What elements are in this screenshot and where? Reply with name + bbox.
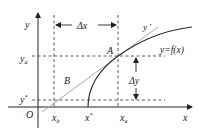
- tangent-line-diagram: y x O A B ya y* xb x* xa Δx Δy y ' y=f(x…: [0, 0, 207, 138]
- x-axis-label: x: [182, 112, 188, 123]
- y-star-label: y*: [19, 94, 27, 105]
- delta-x-label: Δx: [76, 20, 88, 31]
- y-axis-label: y: [24, 19, 30, 30]
- x-b-label: xb: [51, 112, 59, 124]
- tangent-line: [42, 27, 158, 112]
- point-a-label: A: [106, 45, 114, 56]
- y-a-label: ya: [19, 53, 27, 65]
- curve-label: y=f(x): [159, 45, 184, 56]
- x-star-label: x*: [84, 112, 92, 123]
- axes: [8, 13, 192, 128]
- tangent-label: y ': [142, 22, 152, 32]
- origin-label: O: [26, 109, 33, 120]
- delta-y-label: Δy: [128, 75, 140, 86]
- x-a-label: xa: [119, 112, 127, 124]
- point-b-label: B: [64, 75, 70, 86]
